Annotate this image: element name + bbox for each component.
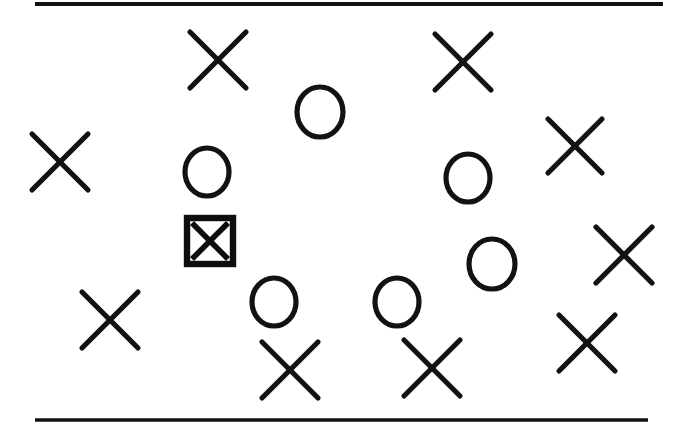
figure-canvas: [0, 0, 680, 427]
figure-background: [0, 0, 680, 427]
visual-search-figure: [0, 0, 680, 427]
